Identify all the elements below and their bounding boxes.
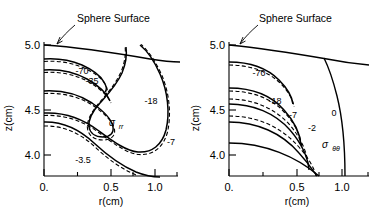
quantity-symbol-sigma-theta-theta: σ θθ [322,139,340,152]
x-tick-label-0-left: 0. [39,181,48,193]
y-axis-label-right: z(cm) [189,105,201,131]
contour-line-2-right [229,122,317,176]
x-tick-label-1.0-left: 1.0 [147,181,162,193]
x-ticks-right [229,169,368,176]
x-axis-label-right: r(cm) [285,195,310,207]
x-ticks-left [44,169,177,176]
y-tick-label-4.0-left: 4.0 [25,149,40,161]
x-tick-label-0.5-right: 0.5 [289,181,304,193]
sphere-surface-leader-right [240,25,258,44]
sphere-surface-curve-right [229,45,369,65]
x-tick-label-0.5-left: 0.5 [103,181,118,193]
contour-panel-sigma-rr: z(cm) 5.0 4.5 4.0 [0,0,190,214]
sphere-surface-annotation-right: Sphere Surface [259,12,332,24]
sphere-surface-leader-left [57,25,75,44]
y-tick-label-4.0-right: 4.0 [210,149,225,161]
y-tick-label-5.0-right: 5.0 [210,39,225,51]
svg-text:σ: σ [322,139,329,150]
svg-text:σ: σ [109,117,116,128]
contour-label-2-right: -2 [308,123,316,133]
contour-label-18-left: -18 [144,96,157,106]
contour-label-7-right: -7 [289,110,297,120]
quantity-symbol-sigma-rr: σ rr [109,117,124,130]
contour-line-3.5-dashed-left [44,126,136,175]
contour-line-3.5-left [44,122,160,177]
contour-label-7-left: -7 [167,137,175,147]
contour-label-35-left: -35 [85,76,98,86]
y-tick-label-4.5-right: 4.5 [210,104,225,116]
x-axis-label-left: r(cm) [99,195,124,207]
figure-two-contour-panels: z(cm) 5.0 4.5 4.0 [0,0,377,214]
contour-label-70-right: -70 [252,68,265,78]
x-tick-label-0-right: 0. [224,181,233,193]
contour-label-0-right: 0 [331,108,336,118]
y-axis-label-left: z(cm) [2,105,14,131]
svg-text:rr: rr [119,123,124,130]
contour-panel-sigma-theta-theta: z(cm) 5.0 4.5 4.0 0. 0.5 [187,0,377,214]
svg-text:θθ: θθ [332,145,340,152]
y-tick-label-5.0-left: 5.0 [25,39,40,51]
x-tick-label-1.0-right: 1.0 [334,181,349,193]
y-tick-label-4.5-left: 4.5 [25,104,40,116]
contour-label-3.5-left: -3.5 [75,155,91,165]
contour-line-7-dashed-right [229,99,308,164]
sphere-surface-annotation-left: Sphere Surface [77,12,150,24]
contour-label-18-right: -18 [268,96,281,106]
